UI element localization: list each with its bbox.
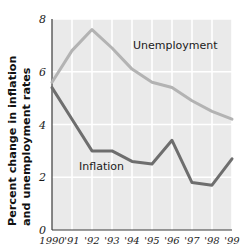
x-tick-label: '92 [84,235,99,246]
y-tick-label: 2 [38,171,46,184]
x-tick-label: '94 [124,235,139,246]
x-tick-label: '95 [144,235,159,246]
x-tick-label: '99 [224,235,240,246]
y-axis-title-line1: Percent change in inflation [6,55,19,226]
x-tick-label: '97 [184,235,200,246]
chart-figure: 02468 1990'91'92'93'94'95'96'97'98'99 Un… [0,0,242,252]
x-tick-label: '91 [64,235,79,246]
x-tick-label: '98 [204,235,219,246]
line-chart: 02468 1990'91'92'93'94'95'96'97'98'99 Un… [0,0,242,252]
y-tick-label: 4 [38,119,46,132]
y-axis-title: Percent change in inflation and unemploy… [6,55,33,226]
y-tick-label: 6 [39,66,46,79]
x-tick-label: '96 [164,235,180,246]
series-label-inflation: Inflation [79,160,124,173]
x-tick-label: 1990 [39,235,65,246]
y-tick-label: 8 [39,13,46,26]
x-tick-label: '93 [104,235,119,246]
y-axis-title-line2: and unemployment rates [20,67,33,226]
series-label-unemployment: Unemployment [133,39,218,52]
